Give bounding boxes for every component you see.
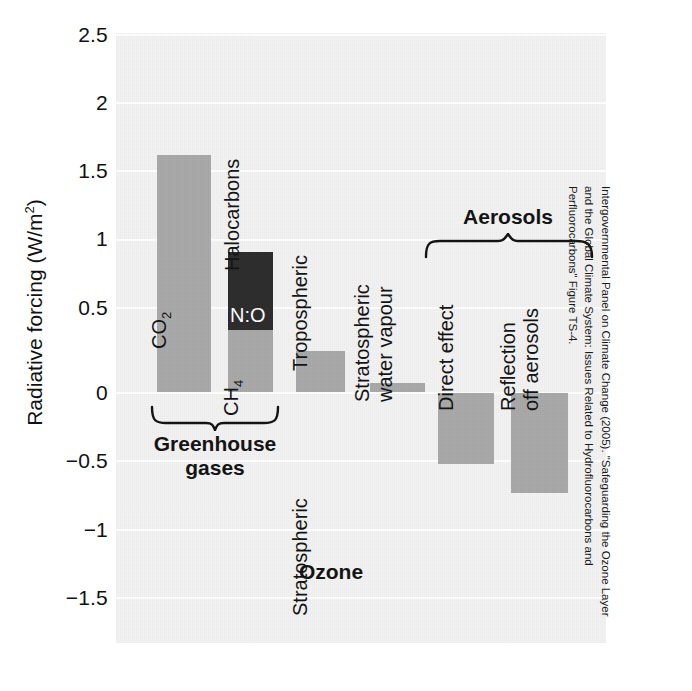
source-credit: Intergovernmental Panel on Climate Chang…	[564, 186, 614, 646]
bar-label-direct-effect: Direct effect	[435, 305, 458, 411]
gridline-2	[116, 102, 606, 104]
y-tick-0: 0	[0, 381, 108, 405]
group-title-ozone: Ozone	[266, 560, 396, 584]
y-tick--0.5: −0.5	[0, 449, 108, 473]
bar-label-stratospheric-water-vapour-line2: water vapour	[374, 286, 397, 402]
bar-co2	[157, 155, 211, 392]
bar-label-co2-text: CO	[148, 319, 170, 349]
radiative-forcing-figure: Radiative forcing (W/m2) 2.5 2 1.5 1 0.5…	[0, 0, 692, 691]
y-axis-title-close: )	[23, 199, 46, 206]
bar-label-ch4-sub: 4	[231, 380, 246, 387]
y-tick-2.5: 2.5	[0, 23, 108, 47]
y-tick-2: 2	[0, 91, 108, 115]
bar-label-co2-sub: 2	[159, 312, 174, 319]
bar-label-tropospheric: Tropospheric	[289, 255, 312, 371]
group-title-greenhouse-gases: Greenhouse gases	[130, 432, 300, 479]
bar-label-co2: CO2	[148, 312, 174, 349]
bar-label-stratospheric: Stratospheric	[289, 498, 312, 616]
plot-area: CO2 Halocarbons N:O CH4 Tropospheric Str…	[116, 33, 606, 643]
bar-label-halocarbons: Halocarbons	[221, 159, 244, 271]
y-axis-title-exponent: 2	[22, 206, 37, 213]
y-tick-0.5: 0.5	[0, 296, 108, 320]
bar-label-reflection-line2: off aerosols	[520, 308, 543, 411]
y-tick--1.5: −1.5	[0, 586, 108, 610]
gridline--1	[116, 529, 606, 531]
bar-label-reflection-line1: Reflection	[497, 322, 520, 411]
y-tick--1: −1	[0, 518, 108, 542]
gridline--1.5	[116, 597, 606, 599]
y-tick-1: 1	[0, 227, 108, 251]
bar-label-stratospheric-water-vapour-line1: Stratospheric	[351, 284, 374, 402]
y-tick-1.5: 1.5	[0, 159, 108, 183]
bar-label-n2o: N:O	[230, 304, 266, 327]
gridline-2.5	[116, 34, 606, 36]
bracket-greenhouse-gases	[150, 405, 280, 431]
